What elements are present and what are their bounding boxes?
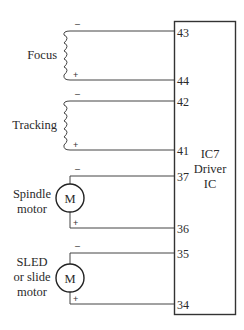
pin-35: 35 xyxy=(177,247,189,261)
spindle-plus-sign: + xyxy=(73,218,78,228)
spindle-label-line2: motor xyxy=(17,202,48,216)
sled-plus-sign: + xyxy=(73,294,78,304)
tracking-plus-sign: + xyxy=(73,140,78,150)
pin-44: 44 xyxy=(177,74,189,88)
sled-label-line3: motor xyxy=(17,285,48,299)
tracking-coil: – + Tracking 42 41 xyxy=(12,89,189,158)
ic-label-line1: IC7 xyxy=(201,147,220,161)
sled-wire-minus xyxy=(70,253,174,264)
ic-label-line3: IC xyxy=(204,177,217,191)
sled-label-line1: SLED xyxy=(16,255,47,269)
spindle-minus-sign: – xyxy=(75,164,80,174)
focus-minus-sign: – xyxy=(75,19,80,29)
focus-label: Focus xyxy=(27,48,57,62)
sled-minus-sign: – xyxy=(75,241,80,251)
driver-ic-wiring-diagram: IC7 Driver IC – + Focus 43 44 – + Tracki… xyxy=(0,0,244,330)
spindle-motor: M – + Spindle motor 37 36 xyxy=(13,164,189,236)
tracking-label: Tracking xyxy=(12,118,57,132)
pin-42: 42 xyxy=(177,95,189,109)
sled-label-line2: or slide xyxy=(13,270,51,284)
pin-43: 43 xyxy=(177,26,189,40)
focus-coil: – + Focus 43 44 xyxy=(27,19,189,88)
focus-plus-sign: + xyxy=(73,70,78,80)
spindle-wire-plus xyxy=(70,212,174,228)
pin-37: 37 xyxy=(177,170,189,184)
sled-wire-plus xyxy=(70,292,174,304)
tracking-minus-sign: – xyxy=(75,89,80,99)
pin-36: 36 xyxy=(177,222,189,236)
ic-label-line2: Driver xyxy=(194,162,227,176)
spindle-label-line1: Spindle xyxy=(13,187,52,201)
sled-motor-symbol: M xyxy=(64,272,75,286)
pin-34: 34 xyxy=(177,298,189,312)
pin-41: 41 xyxy=(177,144,189,158)
tracking-coil-icon xyxy=(64,101,70,150)
spindle-motor-symbol: M xyxy=(64,192,75,206)
spindle-wire-minus xyxy=(70,176,174,184)
focus-coil-icon xyxy=(64,31,70,80)
sled-motor: M – + SLED or slide motor 35 34 xyxy=(13,241,189,312)
